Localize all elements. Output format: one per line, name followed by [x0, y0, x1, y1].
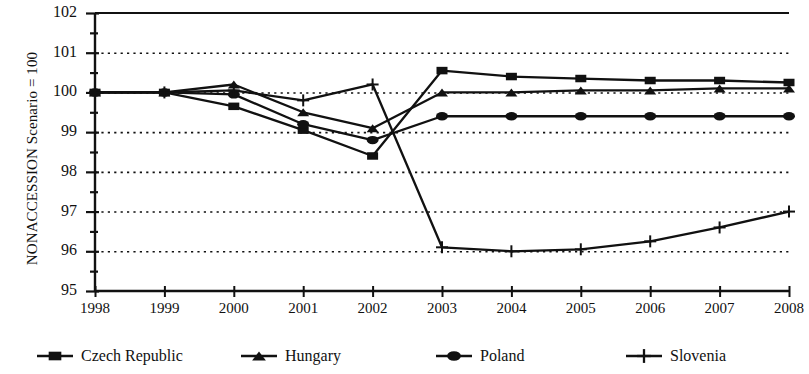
gridlines [95, 53, 789, 252]
legend-label: Slovenia [670, 347, 726, 365]
legend-label: Hungary [285, 347, 341, 365]
triangle-marker-icon [240, 348, 278, 364]
legend-item-slovenia[interactable]: Slovenia [625, 338, 726, 374]
legend-item-poland[interactable]: Poland [435, 338, 524, 374]
series-slovenia [89, 78, 795, 257]
legend-item-czech-republic[interactable]: Czech Republic [36, 338, 183, 374]
legend-label: Czech Republic [81, 347, 183, 365]
square-marker-icon [36, 348, 74, 364]
legend-item-hungary[interactable]: Hungary [240, 338, 341, 374]
plus-marker-icon [625, 348, 663, 364]
y-axis-ticks [86, 14, 99, 292]
chart-legend: Czech RepublicHungaryPolandSlovenia [0, 338, 804, 374]
circle-marker-icon [435, 348, 473, 364]
legend-label: Poland [480, 347, 524, 365]
series-poland [89, 88, 795, 144]
series-hungary [89, 80, 795, 132]
